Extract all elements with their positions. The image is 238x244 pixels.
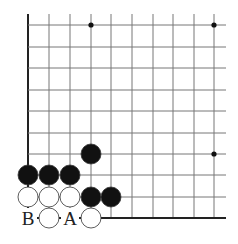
star-point-icon: [211, 151, 216, 156]
white-stone: [18, 187, 38, 207]
point-label-b: B: [22, 208, 35, 229]
black-stone: [101, 187, 121, 207]
black-stone: [60, 165, 80, 185]
point-label-a: A: [63, 208, 77, 229]
white-stone: [60, 187, 80, 207]
black-stone: [18, 165, 38, 185]
star-point-icon: [211, 22, 216, 27]
black-stone: [81, 144, 101, 164]
white-stone: [39, 187, 59, 207]
white-stone: [39, 208, 59, 228]
grid-lines: [28, 14, 226, 218]
black-stone: [39, 165, 59, 185]
black-stone: [81, 187, 101, 207]
star-point-icon: [88, 22, 93, 27]
white-stone: [81, 208, 101, 228]
go-board: BA: [0, 0, 238, 244]
